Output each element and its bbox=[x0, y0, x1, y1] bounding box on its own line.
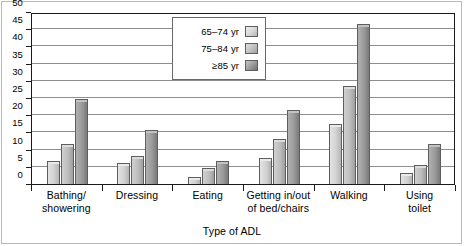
bar[interactable] bbox=[357, 26, 370, 184]
bar-top-face bbox=[329, 124, 342, 127]
bar-top-face bbox=[287, 110, 300, 113]
y-axis-tick-label: 5 bbox=[18, 153, 23, 163]
bar[interactable] bbox=[259, 160, 272, 184]
bar[interactable] bbox=[329, 126, 342, 184]
bar[interactable] bbox=[343, 88, 356, 184]
bar-top-face bbox=[273, 139, 286, 142]
legend-swatch-icon bbox=[245, 26, 258, 37]
legend-item[interactable]: ≥85 yr bbox=[178, 57, 258, 74]
bar-top-face bbox=[117, 163, 130, 166]
bar[interactable] bbox=[400, 175, 413, 184]
bar[interactable] bbox=[202, 170, 215, 184]
bar[interactable] bbox=[47, 163, 60, 184]
bar-top-face bbox=[400, 173, 413, 176]
x-axis-tick-label: Getting in/out of bed/chairs bbox=[243, 189, 314, 214]
bar-top-face bbox=[414, 165, 427, 168]
x-axis-tick-label: Bathing/ showering bbox=[31, 189, 102, 214]
y-axis: 05101520253035404550 bbox=[0, 13, 31, 185]
bar[interactable] bbox=[414, 167, 427, 184]
y-axis-tick-label: 10 bbox=[12, 136, 23, 146]
y-axis-tick-label: 25 bbox=[12, 84, 23, 94]
bar[interactable] bbox=[145, 132, 158, 184]
bar[interactable] bbox=[75, 101, 88, 184]
y-axis-tick-label: 35 bbox=[12, 50, 23, 60]
bar-top-face bbox=[131, 156, 144, 159]
bar-top-face bbox=[428, 144, 441, 147]
bar-group bbox=[315, 14, 386, 184]
bar-chart-figure: 05101520253035404550 Bathing/ showeringD… bbox=[0, 0, 464, 246]
bar-top-face bbox=[145, 130, 158, 133]
legend-item-label: 75–84 yr bbox=[201, 43, 239, 54]
x-axis-tick-label: Dressing bbox=[102, 189, 173, 202]
bar[interactable] bbox=[216, 163, 229, 184]
legend-item[interactable]: 75–84 yr bbox=[178, 40, 258, 57]
legend-item-label: ≥85 yr bbox=[212, 60, 239, 71]
x-axis-tick-mark bbox=[455, 185, 456, 191]
bar-group bbox=[385, 14, 455, 184]
legend: 65–74 yr 75–84 yr ≥85 yr bbox=[172, 17, 266, 80]
x-axis-title: Type of ADL bbox=[0, 225, 464, 237]
legend-swatch-icon bbox=[245, 43, 258, 54]
bar[interactable] bbox=[428, 146, 441, 184]
bar[interactable] bbox=[131, 158, 144, 184]
bar[interactable] bbox=[273, 141, 286, 184]
bar[interactable] bbox=[117, 165, 130, 184]
y-axis-tick-label: 30 bbox=[12, 67, 23, 77]
bar-top-face bbox=[47, 161, 60, 164]
bar-top-face bbox=[259, 158, 272, 161]
bar[interactable] bbox=[188, 179, 201, 184]
bar-top-face bbox=[75, 99, 88, 102]
y-axis-tick-label: 45 bbox=[12, 15, 23, 25]
bar-group bbox=[32, 14, 103, 184]
bar-top-face bbox=[216, 161, 229, 164]
bar-top-face bbox=[357, 24, 370, 27]
y-axis-tick-label: 50 bbox=[12, 0, 23, 8]
bar-top-face bbox=[343, 86, 356, 89]
bar-group bbox=[103, 14, 174, 184]
bar[interactable] bbox=[61, 146, 74, 184]
y-axis-tick-label: 0 bbox=[18, 170, 23, 180]
x-axis-tick-label: Eating bbox=[172, 189, 243, 202]
legend-swatch-icon bbox=[245, 60, 258, 71]
bar-top-face bbox=[188, 177, 201, 180]
legend-item[interactable]: 65–74 yr bbox=[178, 23, 258, 40]
x-axis-tick-label: Using toilet bbox=[384, 189, 455, 214]
bar-top-face bbox=[61, 144, 74, 147]
y-axis-tick-label: 15 bbox=[12, 118, 23, 128]
legend-item-label: 65–74 yr bbox=[201, 26, 239, 37]
x-axis-tick-label: Walking bbox=[314, 189, 385, 202]
y-axis-tick-label: 20 bbox=[12, 101, 23, 111]
y-axis-tick-label: 40 bbox=[12, 32, 23, 42]
bar[interactable] bbox=[287, 112, 300, 184]
bar-top-face bbox=[202, 168, 215, 171]
